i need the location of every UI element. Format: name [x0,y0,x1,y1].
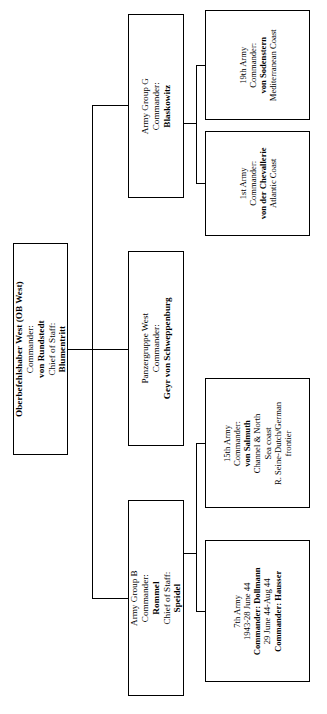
node-7th-army-line-3: Commander: Dollmann [252,567,262,655]
node-7th-army-line-1: 7th Army [232,567,242,655]
connector-root-spine [92,105,93,598]
node-oberbefehlshaber-west[interactable]: Oberbefehlshaber West (OB West) Commande… [13,243,68,455]
node-19th-army[interactable]: 19th Army Commander: von Sodenstern Medi… [205,10,310,120]
node-7th-army-line-4: 29 June 44-Aug 44 [263,567,273,655]
node-army-group-b-line-3: Rommel [151,570,162,626]
connector-army-group-g-to-1st-army [196,183,205,184]
node-root-line-2: Commander: [24,281,35,417]
connector-root-to-panzergruppe-west [92,349,128,350]
node-15th-army-line-1: 15th Army [222,401,232,484]
node-panzergruppe-west-line-2: Commander: [151,298,162,400]
node-15th-army[interactable]: 15th Army Commander: von Salmuth Channel… [205,378,310,508]
node-army-group-g-line-3: Blaskowitz [161,78,172,134]
node-army-group-b-line-2: Commander: [140,570,151,626]
node-army-group-b-line-5: Speidel [172,570,183,626]
node-7th-army-line-5: Commander: Hausser [273,567,283,655]
node-1st-army-line-2: Commander: [247,148,257,220]
node-15th-army-line-2: Commander: [232,401,242,484]
connector-army-group-g-spine [196,65,197,183]
connector-army-group-b-to-7th-army [196,611,205,612]
node-15th-army-line-6: R. Seine-Dutch/German [273,401,283,484]
connector-root-to-army-group-b [92,598,128,599]
node-army-group-b-line-1: Army Group B [129,570,140,626]
connector-army-group-g-stub [184,123,196,124]
connector-root-to-army-group-g [92,105,128,106]
node-7th-army-line-2: 1943-28 June 44 [242,567,252,655]
node-panzergruppe-west-line-1: Panzergruppe West [140,298,151,400]
node-19th-army-line-2: Commander: [247,29,257,101]
node-1st-army-line-1: 1st Army [237,148,247,220]
node-army-group-g-line-2: Commander: [151,78,162,134]
node-army-group-g[interactable]: Army Group G Commander: Blaskowitz [128,14,184,198]
node-7th-army[interactable]: 7th Army 1943-28 June 44 Commander: Doll… [205,540,310,682]
node-1st-army-line-4: Atlantic Coast [268,148,278,220]
connector-army-group-b-stub [184,553,196,554]
node-army-group-b[interactable]: Army Group B Commander: Rommel Chief of … [128,500,184,696]
node-panzergruppe-west-line-3: Geyr von Schweppenburg [161,298,172,400]
node-1st-army-line-3: von der Chevallerie [258,148,268,220]
node-army-group-g-line-1: Army Group G [140,78,151,134]
connector-root-stub [68,349,92,350]
node-root-line-5: Blumentritt [57,281,68,417]
node-root-line-1: Oberbefehlshaber West (OB West) [13,281,24,417]
node-15th-army-line-3: von Salmuth [242,401,252,484]
node-panzergruppe-west[interactable]: Panzergruppe West Commander: Geyr von Sc… [128,251,184,446]
node-15th-army-line-5: Sea coast [263,401,273,484]
node-15th-army-line-7: frontier [283,401,293,484]
node-army-group-b-line-4: Chief of Staff: [161,570,172,626]
org-chart-canvas: Oberbefehlshaber West (OB West) Commande… [0,0,327,714]
node-19th-army-line-1: 19th Army [237,29,247,101]
node-19th-army-line-3: von Sodenstern [257,29,267,101]
connector-army-group-b-spine [196,443,197,611]
node-19th-army-line-4: Mediterranean Coast [268,29,278,101]
node-root-line-4: Chief of Staff: [46,281,57,417]
connector-army-group-b-to-15th-army [196,443,205,444]
node-root-line-3: von Rundstedt [35,281,46,417]
node-1st-army[interactable]: 1st Army Commander: von der Chevallerie … [205,131,310,236]
node-15th-army-line-4: Channel & North [252,401,262,484]
connector-army-group-g-to-19th-army [196,65,205,66]
